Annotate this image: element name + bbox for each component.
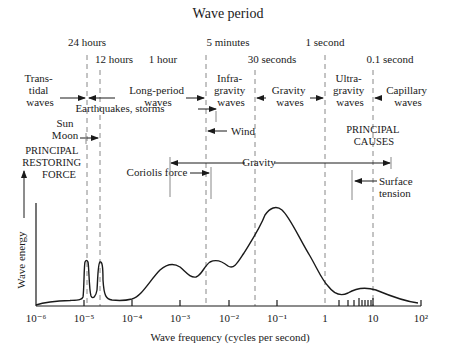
wave-energy-curve [36,208,418,305]
surface-tension-label: Surface tension [379,175,415,199]
period-5min: 5 minutes [206,36,249,48]
period-1h: 1 hour [149,53,178,65]
period-12h: 12 hours [95,53,133,65]
period-24h: 24 hours [68,36,106,48]
svg-text:1: 1 [322,312,328,324]
x-tick-labels: 10⁻⁶ 10⁻⁵ 10⁻⁴ 10⁻³ 10⁻² 10⁻¹ 1 10 10² [26,312,429,324]
svg-text:10²: 10² [414,312,429,324]
diagram-title: Wave period [193,6,264,21]
svg-text:10⁻³: 10⁻³ [170,312,191,324]
axes [36,203,421,306]
transtidal-label: Trans- tidal waves [24,72,55,108]
svg-text:10⁻⁶: 10⁻⁶ [26,312,47,324]
svg-text:10⁻¹: 10⁻¹ [267,312,287,324]
svg-text:10⁻⁴: 10⁻⁴ [122,312,143,324]
coriolis-force-label: Coriolis force [127,166,188,178]
x-axis-label: Wave frequency (cycles per second) [150,331,309,344]
wave-spectrum-diagram: Wave period 24 hours 12 hours 1 hour 5 m… [0,0,451,349]
earthquakes-storms-label: Earthquakes, storms [75,102,164,114]
infragravity-label: Infra- gravity waves [214,72,248,108]
principal-restoring-force-label: PRINCIPAL RESTORING FORCE [22,145,83,180]
svg-text:10⁻²: 10⁻² [219,312,240,324]
gravity-force-label: Gravity [242,156,276,168]
wind-label: Wind [231,125,255,137]
period-labels: 24 hours 12 hours 1 hour 5 minutes 30 se… [68,36,414,65]
svg-text:10⁻⁵: 10⁻⁵ [74,312,95,324]
y-axis-label: Wave energy [15,231,27,289]
period-30s: 30 seconds [248,53,297,65]
causes-labels: Earthquakes, storms Wind Sun Moon PRINCI… [22,102,415,199]
sun-label: Sun [56,117,74,129]
moon-label: Moon [52,129,79,141]
ultragravity-label: Ultra- gravity waves [333,72,367,108]
capillary-label: Capillary waves [386,84,430,108]
svg-text:10: 10 [368,312,380,324]
period-1s: 1 second [306,36,345,48]
period-0.1s: 0.1 second [366,53,414,65]
principal-causes-label: PRINCIPAL CAUSES [346,124,402,147]
gravity-waves-label: Gravity waves [272,84,308,108]
